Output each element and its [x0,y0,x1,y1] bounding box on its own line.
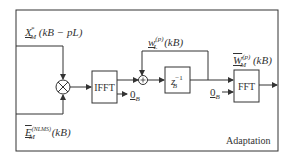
w-arg: (kB) [164,36,183,48]
ifft-label: IFFT [92,82,117,93]
e-sub: M [29,133,35,141]
x-arg: (kB − pL) [39,26,82,38]
x-sub: M [30,33,36,41]
x-input-label: X*M (kB − pL) [25,26,82,41]
W-sup: (p) [242,53,250,61]
x-sup: * [31,25,35,33]
e-sup: (NLMS) [32,126,51,132]
zero-ifft-sub: B [136,95,140,103]
w-time-label: w(p)L (kB) [148,36,183,51]
delay-label: z−1B [171,75,177,90]
delay-sup: −1 [175,74,182,82]
fft-label: FFT [234,81,259,92]
e-input-line [16,95,63,114]
W-arg: (kB) [253,54,272,66]
w-sup: (p) [155,35,163,43]
zero-fft-label: 0B [210,87,220,101]
W-sub: M [240,61,246,69]
w-freq-label: W(p)M (kB) [233,54,272,69]
adaptation-title: Adaptation [226,135,270,146]
w-sub: L [154,43,158,51]
x-input-line [16,46,63,79]
zero-fft-sub: B [216,93,220,101]
zero-ifft-label: 0B [130,89,140,103]
e-arg: (kB) [52,126,71,138]
e-input-label: E(NLMS)M (kB) [25,126,71,141]
delay-sub: B [173,82,177,90]
